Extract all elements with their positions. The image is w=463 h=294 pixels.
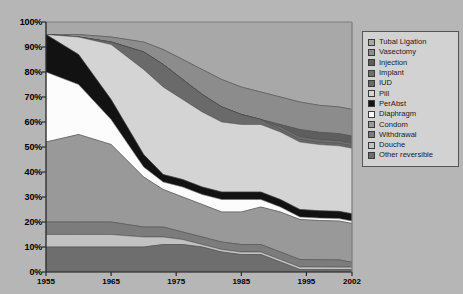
chart-legend: Tubal LigationVasectomyInjectionImplantI…: [362, 31, 459, 167]
legend-item[interactable]: Pill: [368, 88, 454, 98]
legend-item[interactable]: Douche: [368, 140, 454, 150]
legend-item-label: Injection: [379, 58, 407, 68]
legend-item-label: Vasectomy: [379, 47, 416, 57]
legend-item-label: Tubal Ligation: [379, 37, 426, 47]
x-tick-label: 1995: [298, 277, 316, 286]
legend-item-label: Implant: [379, 68, 404, 78]
area-bands: [46, 22, 352, 272]
legend-swatch-icon: [368, 70, 375, 77]
x-tick-label: 1955: [37, 277, 55, 286]
legend-item-label: PerAbst: [379, 99, 406, 109]
x-tick-label: 1965: [102, 277, 120, 286]
legend-item[interactable]: Tubal Ligation: [368, 37, 454, 47]
legend-item-label: Withdrawal: [379, 130, 417, 140]
legend-item[interactable]: Withdrawal: [368, 130, 454, 140]
legend-item[interactable]: Other reversible: [368, 150, 454, 160]
legend-item[interactable]: Diaphragm: [368, 109, 454, 119]
legend-item-label: IUD: [379, 78, 392, 88]
legend-item-label: Other reversible: [379, 150, 433, 160]
y-tick-label: 40%: [8, 167, 42, 177]
y-tick-label: 90%: [8, 42, 42, 52]
legend-item-label: Douche: [379, 140, 405, 150]
y-tick-label: 10%: [8, 242, 42, 252]
y-tick-label: 50%: [8, 142, 42, 152]
legend-item[interactable]: Injection: [368, 58, 454, 68]
y-tick-label: 30%: [8, 192, 42, 202]
legend-swatch-icon: [368, 49, 375, 56]
y-tick-label: 60%: [8, 117, 42, 127]
y-tick-label: 80%: [8, 67, 42, 77]
y-tick-label: 20%: [8, 217, 42, 227]
legend-item[interactable]: IUD: [368, 78, 454, 88]
legend-item-label: Condom: [379, 120, 408, 130]
x-tick-label: 1975: [167, 277, 185, 286]
legend-item-label: Diaphragm: [379, 109, 416, 119]
legend-swatch-icon: [368, 80, 375, 87]
stacked-area-chart: 0%10%20%30%40%50%60%70%80%90%100% 195519…: [0, 0, 463, 294]
legend-swatch-icon: [368, 39, 375, 46]
y-axis: 0%10%20%30%40%50%60%70%80%90%100%: [6, 0, 42, 294]
x-tick-label: 2002: [343, 277, 361, 286]
legend-swatch-icon: [368, 100, 375, 107]
legend-swatch-icon: [368, 131, 375, 138]
y-tick-label: 100%: [8, 17, 42, 27]
legend-swatch-icon: [368, 142, 375, 149]
legend-swatch-icon: [368, 59, 375, 66]
legend-swatch-icon: [368, 90, 375, 97]
legend-item[interactable]: Implant: [368, 68, 454, 78]
legend-item[interactable]: PerAbst: [368, 99, 454, 109]
legend-item[interactable]: Condom: [368, 119, 454, 129]
y-tick-label: 0%: [8, 267, 42, 277]
legend-item[interactable]: Vasectomy: [368, 47, 454, 57]
x-tick-label: 1985: [232, 277, 250, 286]
legend-swatch-icon: [368, 121, 375, 128]
legend-swatch-icon: [368, 111, 375, 118]
legend-swatch-icon: [368, 152, 375, 159]
y-tick-label: 70%: [8, 92, 42, 102]
legend-item-label: Pill: [379, 89, 389, 99]
